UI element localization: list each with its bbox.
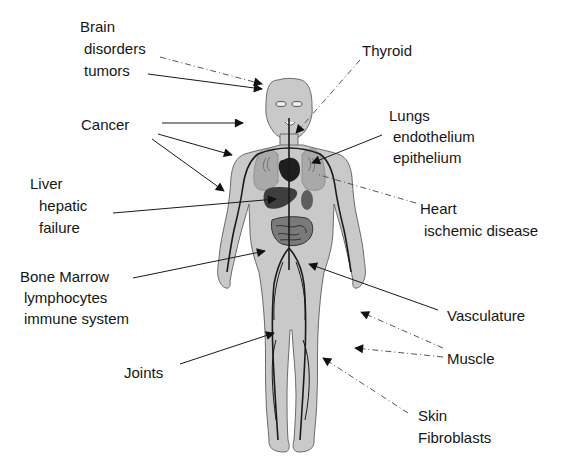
label-bone-marrow-line-2: lymphocytes — [20, 288, 129, 307]
label-bone-marrow-line-3: immune system — [20, 309, 129, 328]
label-liver-line-3: failure — [30, 218, 87, 237]
arrow-muscle-knee — [355, 348, 443, 357]
label-cancer-line-1: Cancer — [81, 115, 129, 134]
label-cancer: Cancer — [81, 115, 129, 134]
arrow-joints — [180, 333, 274, 364]
arrow-skin — [323, 358, 408, 413]
arrow-lungs — [312, 135, 382, 163]
label-joints-line-1: Joints — [124, 363, 163, 382]
label-skin-line-2: Fibroblasts — [418, 428, 491, 447]
label-brain: Brain disorders tumors — [80, 17, 146, 80]
label-thyroid: Thyroid — [362, 41, 412, 60]
label-bone-marrow: Bone Marrow lymphocytes immune system — [20, 267, 129, 328]
label-brain-line-3: tumors — [80, 61, 146, 80]
arrow-vasculature — [309, 264, 438, 310]
label-heart-line-1: Heart — [420, 199, 538, 218]
arrow-brain-disorders — [160, 57, 262, 84]
label-liver: Liver hepatic failure — [30, 174, 87, 237]
label-vasculature-line-1: Vasculature — [447, 306, 525, 325]
arrow-brain-tumors — [148, 74, 262, 89]
label-bone-marrow-line-1: Bone Marrow — [20, 267, 129, 286]
label-skin: Skin Fibroblasts — [418, 406, 491, 447]
label-lungs-line-2: endothelium — [389, 127, 475, 146]
label-muscle-line-1: Muscle — [447, 349, 495, 368]
label-thyroid-line-1: Thyroid — [362, 41, 412, 60]
label-lungs: Lungs endothelium epithelium — [389, 106, 475, 167]
arrow-bone-marrow — [133, 251, 265, 278]
label-lungs-line-3: epithelium — [389, 148, 475, 167]
body-silhouette — [218, 78, 366, 452]
label-liver-line-1: Liver — [30, 174, 87, 193]
organ-target-diagram: Brain disorders tumors Thyroid Cancer Lu… — [0, 0, 577, 458]
label-heart: Heart ischemic disease — [420, 199, 538, 240]
label-brain-line-1: Brain — [80, 17, 146, 36]
arrow-cancer-forearm — [152, 139, 224, 191]
kidney — [301, 190, 313, 210]
arrow-muscle-thigh — [361, 312, 443, 348]
label-heart-line-2: ischemic disease — [420, 221, 538, 240]
label-muscle: Muscle — [447, 349, 495, 368]
intestines — [271, 217, 312, 246]
label-vasculature: Vasculature — [447, 306, 525, 325]
label-joints: Joints — [124, 363, 163, 382]
label-skin-line-1: Skin — [418, 406, 491, 425]
label-lungs-line-1: Lungs — [389, 106, 475, 125]
label-brain-line-2: disorders — [80, 39, 146, 58]
label-liver-line-2: hepatic — [30, 196, 87, 215]
